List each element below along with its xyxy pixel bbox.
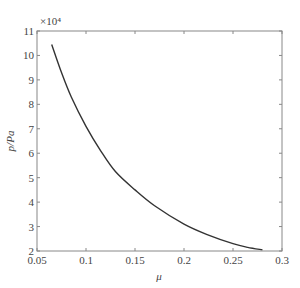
x-tick-label: 0.3 (275, 254, 289, 266)
y-tick-label: 5 (29, 172, 35, 184)
x-tick-label: 0.15 (125, 254, 145, 266)
y-tick-label: 3 (29, 221, 35, 233)
x-tick-label: 0.2 (177, 254, 191, 266)
y-tick-label: 10 (23, 49, 35, 61)
y-axis-label: p/Pa (4, 130, 16, 152)
x-tick-label: 0.1 (79, 254, 93, 266)
x-tick-label: 0.25 (223, 254, 243, 266)
x-axis-label: μ (155, 270, 162, 282)
y-tick-label: 4 (29, 196, 35, 208)
y-tick-label: 8 (29, 98, 35, 110)
y-multiplier-label: ×10⁴ (40, 15, 61, 27)
y-tick-label: 6 (29, 147, 35, 159)
y-tick-label: 7 (29, 123, 35, 135)
plot-frame (37, 31, 282, 251)
line-chart: 0.050.10.150.20.250.3 234567891011 ×10⁴ … (0, 0, 300, 288)
y-tick-label: 9 (29, 74, 35, 86)
y-tick-label: 11 (23, 25, 34, 37)
y-axis-ticks: 234567891011 (23, 25, 282, 257)
series-line (52, 44, 263, 249)
data-series (52, 44, 263, 249)
y-tick-label: 2 (29, 245, 35, 257)
x-axis-ticks: 0.050.10.150.20.250.3 (27, 31, 289, 266)
